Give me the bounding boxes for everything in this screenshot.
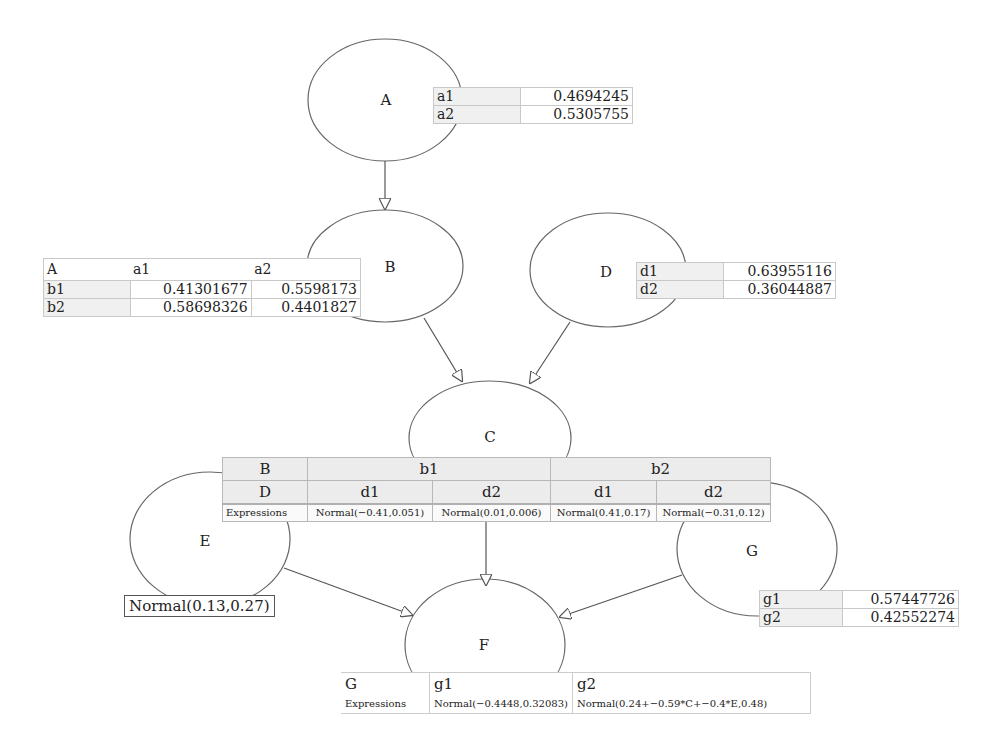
expression-cell: Normal(0.01,0.006) xyxy=(433,504,551,522)
cpt-table-C: B b1 b2 D d1 d2 d1 d2 Expressions Normal… xyxy=(222,457,771,522)
node-B-label: B xyxy=(384,258,395,276)
edge-G-F xyxy=(560,575,682,617)
node-G-label: G xyxy=(746,542,758,560)
expression-cell: Normal(−0.41,0.051) xyxy=(308,504,433,522)
node-A-label: A xyxy=(381,91,392,109)
table-row: d2 0.36044887 xyxy=(637,281,836,299)
cpt-table-G: g1 0.57447726 g2 0.42552274 xyxy=(759,590,959,627)
expressions-label: Expressions xyxy=(341,695,430,714)
state-cell: g2 xyxy=(760,609,843,627)
expression-cell: Normal(0.41,0.17) xyxy=(551,504,657,522)
probability-cell: 0.58698326 xyxy=(130,299,251,317)
parent-G-header: G xyxy=(341,673,430,696)
cpt-table-D: d1 0.63955116 d2 0.36044887 xyxy=(636,262,836,299)
parent-header: A xyxy=(44,259,131,281)
state-cell: b1 xyxy=(44,281,131,299)
column-group-header: b1 xyxy=(308,458,551,481)
column-header: d2 xyxy=(657,481,771,505)
probability-cell: 0.5598173 xyxy=(251,281,360,299)
table-header-row: B b1 b2 xyxy=(223,458,771,481)
column-group-header: b2 xyxy=(551,458,771,481)
table-row: g2 0.42552274 xyxy=(760,609,959,627)
state-cell: d2 xyxy=(637,281,724,299)
edge-D-C xyxy=(530,322,570,383)
probability-cell: 0.41301677 xyxy=(130,281,251,299)
column-header: d2 xyxy=(433,481,551,505)
cpt-table-B: A a1 a2 b1 0.41301677 0.5598173 b2 0.586… xyxy=(43,258,361,317)
probability-cell: 0.63955116 xyxy=(724,263,836,281)
node-E-label: E xyxy=(200,532,211,550)
column-header: g1 xyxy=(430,673,573,696)
cpt-table-F: G g1 g2 Expressions Normal(−0.4448,0.320… xyxy=(341,672,811,714)
cpt-expression-E: Normal(0.13,0.27) xyxy=(124,595,275,617)
cpt-table-A: a1 0.4694245 a2 0.5305755 xyxy=(433,87,633,124)
table-row: b1 0.41301677 0.5598173 xyxy=(44,281,361,299)
edge-E-F xyxy=(284,568,412,615)
edge-B-C xyxy=(424,318,462,381)
column-header: d1 xyxy=(308,481,433,505)
node-D-label: D xyxy=(600,263,612,281)
state-cell: b2 xyxy=(44,299,131,317)
node-F-label: F xyxy=(479,636,489,654)
table-row: g1 0.57447726 xyxy=(760,591,959,609)
table-row: a2 0.5305755 xyxy=(434,106,633,124)
probability-cell: 0.57447726 xyxy=(843,591,959,609)
table-row: Expressions Normal(−0.4448,0.32083) Norm… xyxy=(341,695,811,714)
probability-cell: 0.5305755 xyxy=(521,106,633,124)
expressions-label: Expressions xyxy=(223,504,308,522)
table-row: d1 0.63955116 xyxy=(637,263,836,281)
state-cell: g1 xyxy=(760,591,843,609)
column-header: d1 xyxy=(551,481,657,505)
state-cell: a2 xyxy=(434,106,521,124)
state-cell: d1 xyxy=(637,263,724,281)
parent-D-header: D xyxy=(223,481,308,505)
node-C-label: C xyxy=(484,428,495,446)
probability-cell: 0.42552274 xyxy=(843,609,959,627)
table-header-row: D d1 d2 d1 d2 xyxy=(223,481,771,505)
table-header-row: A a1 a2 xyxy=(44,259,361,281)
table-row: b2 0.58698326 0.4401827 xyxy=(44,299,361,317)
probability-cell: 0.4401827 xyxy=(251,299,360,317)
column-header: g2 xyxy=(572,673,810,696)
column-header: a2 xyxy=(251,259,360,281)
probability-cell: 0.4694245 xyxy=(521,88,633,106)
table-header-row: G g1 g2 xyxy=(341,673,811,696)
expression-cell: Normal(−0.4448,0.32083) xyxy=(430,695,573,714)
probability-cell: 0.36044887 xyxy=(724,281,836,299)
expression-cell: Normal(0.24+−0.59*C+−0.4*E,0.48) xyxy=(572,695,810,714)
state-cell: a1 xyxy=(434,88,521,106)
table-row: Expressions Normal(−0.41,0.051) Normal(0… xyxy=(223,504,771,522)
column-header: a1 xyxy=(130,259,251,281)
table-row: a1 0.4694245 xyxy=(434,88,633,106)
parent-B-header: B xyxy=(223,458,308,481)
expression-cell: Normal(−0.31,0.12) xyxy=(657,504,771,522)
